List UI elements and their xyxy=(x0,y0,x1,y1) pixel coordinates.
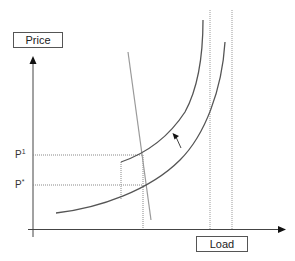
price-label-p1-sup: 1 xyxy=(22,148,26,155)
x-axis-label: Load xyxy=(196,236,248,252)
price-label-pstar-base: P xyxy=(15,179,22,190)
y-axis-label: Price xyxy=(13,32,63,48)
shift-arrow-shaft xyxy=(176,137,181,148)
x-axis-arrow-icon xyxy=(278,226,286,233)
price-label-p1-base: P xyxy=(15,149,22,160)
demand-line xyxy=(128,52,151,220)
price-label-pstar-sup: * xyxy=(22,178,25,185)
y-axis-arrow-icon xyxy=(30,56,37,64)
shift-arrow-icon xyxy=(173,133,180,140)
price-label-p1: P1 xyxy=(15,148,26,160)
price-label-pstar: P* xyxy=(15,178,24,190)
